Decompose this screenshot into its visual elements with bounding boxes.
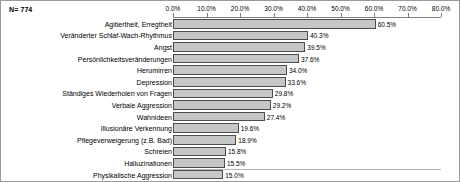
bar-track: 39.5%	[173, 41, 441, 53]
bar-track: 29.8%	[173, 88, 441, 100]
chart-row: Wahnideen27.4%	[1, 111, 460, 123]
bar-value-label: 19.6%	[239, 125, 259, 132]
bar-track: 19.6%	[173, 122, 441, 134]
category-label: Ständiges Wiederholen von Fragen	[62, 90, 172, 97]
x-axis-tick-mark	[207, 13, 208, 17]
bar	[173, 65, 287, 75]
x-axis-tick-label: 60.0%	[365, 5, 383, 12]
category-label: Angst	[154, 43, 172, 50]
x-axis-tick-mark	[307, 13, 308, 17]
x-axis-tick-mark	[441, 13, 442, 17]
bar-track: 37.6%	[173, 53, 441, 65]
bar-value-label: 18.9%	[236, 136, 256, 143]
bar-track: 33.6%	[173, 76, 441, 88]
bar-value-label: 34.0%	[287, 67, 307, 74]
plot-baseline	[173, 169, 441, 170]
chart-row: Physikalische Aggression15.0%	[1, 169, 460, 181]
bar	[173, 89, 273, 99]
chart-row: Pflegeverweigerung (z.B. Bad)18.9%	[1, 134, 460, 146]
x-axis-tick-mark	[274, 13, 275, 17]
chart-row: Herumirren34.0%	[1, 64, 460, 76]
chart-row: Depression33.6%	[1, 76, 460, 88]
x-axis-tick-mark	[341, 13, 342, 17]
category-label: Depression	[137, 78, 172, 85]
bar-value-label: 15.8%	[226, 148, 246, 155]
bar-track: 27.4%	[173, 111, 441, 123]
bar	[173, 100, 271, 110]
bar	[173, 112, 265, 122]
chart-container: N= 774 0.0%10.0%20.0%30.0%40.0%50.0%60.0…	[0, 0, 460, 182]
chart-row: Schreien15.8%	[1, 146, 460, 158]
bar	[173, 135, 236, 145]
bar-track: 29.2%	[173, 99, 441, 111]
bar-value-label: 29.2%	[271, 101, 291, 108]
bar-value-label: 37.6%	[299, 55, 319, 62]
category-label: Schreien	[144, 148, 172, 155]
bar	[173, 158, 225, 168]
bar	[173, 77, 286, 87]
bar	[173, 54, 299, 64]
bar-value-label: 29.8%	[273, 90, 293, 97]
category-label: Wahnideen	[137, 113, 172, 120]
bar-track: 15.0%	[173, 169, 441, 181]
chart-row: Illusionäre Verkennung19.6%	[1, 122, 460, 134]
x-axis-tick-label: 70.0%	[398, 5, 416, 12]
x-axis-tick-mark	[240, 13, 241, 17]
bar-value-label: 40.3%	[308, 32, 328, 39]
x-axis-tick-label: 80.0%	[432, 5, 450, 12]
category-label: Agitiertheit, Erregtheit	[105, 20, 172, 27]
bar	[173, 123, 239, 133]
x-axis-tick-label: 0.0%	[166, 5, 181, 12]
category-label: Herumirren	[137, 67, 172, 74]
bar	[173, 170, 223, 180]
category-label: Pflegeverweigerung (z.B. Bad)	[77, 136, 172, 143]
bar-track: 15.8%	[173, 146, 441, 158]
bar	[173, 19, 376, 29]
x-axis-tick-label: 30.0%	[264, 5, 282, 12]
category-label: Persönlichkeitsveränderungen	[78, 55, 172, 62]
bar	[173, 147, 226, 157]
chart-row: Veränderter Schlaf-Wach-Rhythmus40.3%	[1, 30, 460, 42]
bar-track: 34.0%	[173, 64, 441, 76]
x-axis-tick-mark	[374, 13, 375, 17]
chart-row: Halluzinationen15.5%	[1, 157, 460, 169]
chart-row: Verbale Aggression29.2%	[1, 99, 460, 111]
bar-value-label: 60.5%	[376, 20, 396, 27]
x-axis-tick-label: 20.0%	[231, 5, 249, 12]
bar-value-label: 15.5%	[225, 159, 245, 166]
plot-area: Agitiertheit, Erregtheit60.5%Veränderter…	[1, 18, 460, 170]
category-label: Verbale Aggression	[112, 101, 172, 108]
chart-row: Agitiertheit, Erregtheit60.5%	[1, 18, 460, 30]
category-label: Halluzinationen	[124, 159, 172, 166]
x-axis-tick-labels: 0.0%10.0%20.0%30.0%40.0%50.0%60.0%70.0%8…	[173, 5, 445, 16]
category-label: Physikalische Aggression	[93, 171, 172, 178]
bar-value-label: 33.6%	[286, 78, 306, 85]
bar-value-label: 39.5%	[305, 43, 325, 50]
x-axis-tick-mark	[173, 13, 174, 17]
bar	[173, 42, 305, 52]
x-axis-tick-mark	[408, 13, 409, 17]
bar-value-label: 27.4%	[265, 113, 285, 120]
sample-size-label: N= 774	[9, 6, 32, 13]
x-axis-tick-label: 50.0%	[331, 5, 349, 12]
category-label: Illusionäre Verkennung	[101, 125, 172, 132]
bar-track: 60.5%	[173, 18, 441, 30]
category-label: Veränderter Schlaf-Wach-Rhythmus	[60, 32, 172, 39]
bar-track: 18.9%	[173, 134, 441, 146]
bar-value-label: 15.0%	[223, 171, 243, 178]
x-axis-tick-label: 10.0%	[197, 5, 215, 12]
chart-row: Persönlichkeitsveränderungen37.6%	[1, 53, 460, 65]
bar-track: 40.3%	[173, 30, 441, 42]
x-axis-tick-label: 40.0%	[298, 5, 316, 12]
chart-row: Angst39.5%	[1, 41, 460, 53]
bar-track: 15.5%	[173, 157, 441, 169]
bar	[173, 31, 308, 41]
chart-row: Ständiges Wiederholen von Fragen29.8%	[1, 88, 460, 100]
